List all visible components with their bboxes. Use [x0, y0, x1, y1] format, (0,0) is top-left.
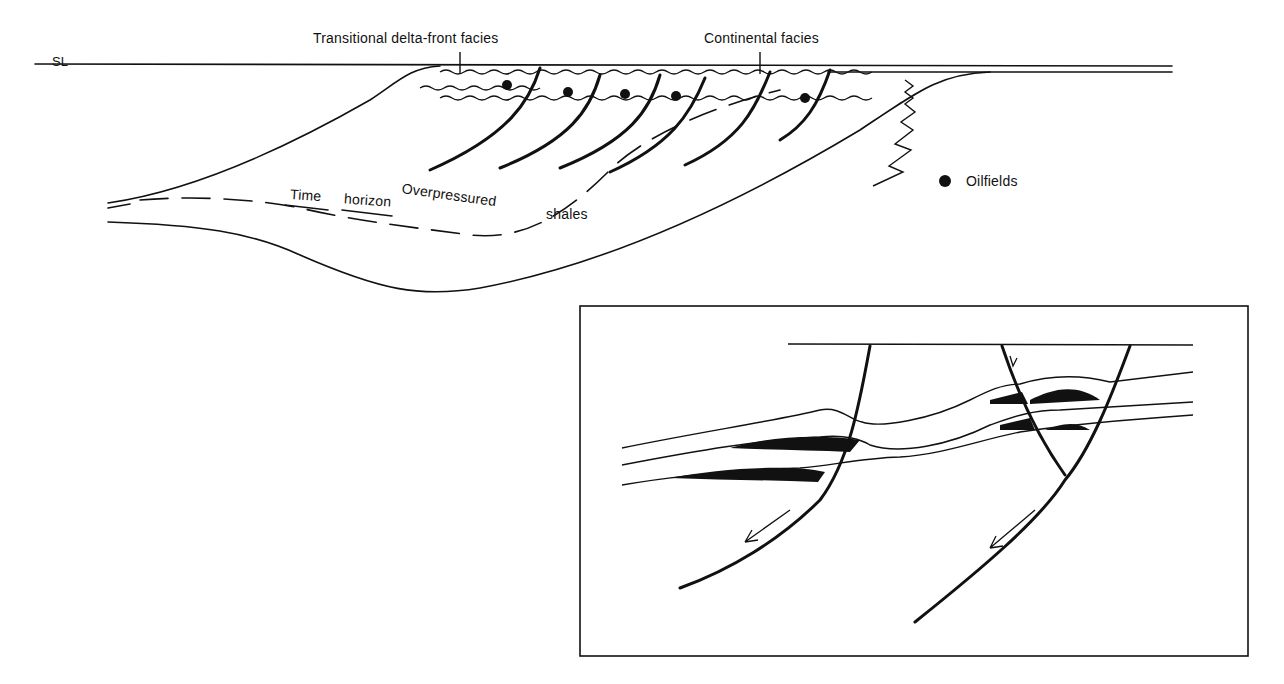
- time-horizon-dashed: [140, 90, 780, 236]
- horizon-label: horizon: [343, 190, 391, 209]
- delta-cross-section: [0, 0, 1284, 684]
- growth-faults: [430, 68, 830, 172]
- sea-level-line: [35, 64, 1172, 66]
- slip-arrows: [745, 356, 1035, 548]
- inset-reservoirs: [670, 389, 1100, 482]
- time-label: Time: [289, 186, 321, 204]
- basin-base: [108, 72, 990, 292]
- inset-frame: [580, 306, 1248, 656]
- sea-level-label: SL: [52, 54, 68, 69]
- delta-front-surface: [108, 66, 440, 203]
- inset-strata: [622, 344, 1193, 485]
- facies-hatching: [420, 70, 915, 186]
- inset-faults: [680, 346, 1130, 622]
- legend-oilfields-label: Oilfields: [966, 173, 1018, 189]
- legend-dot-icon: [939, 175, 951, 187]
- continental-facies-label: Continental facies: [704, 30, 819, 46]
- oilfield-dots: [502, 80, 951, 187]
- shales-label: shales: [546, 206, 588, 222]
- transitional-facies-label: Transitional delta-front facies: [313, 30, 498, 46]
